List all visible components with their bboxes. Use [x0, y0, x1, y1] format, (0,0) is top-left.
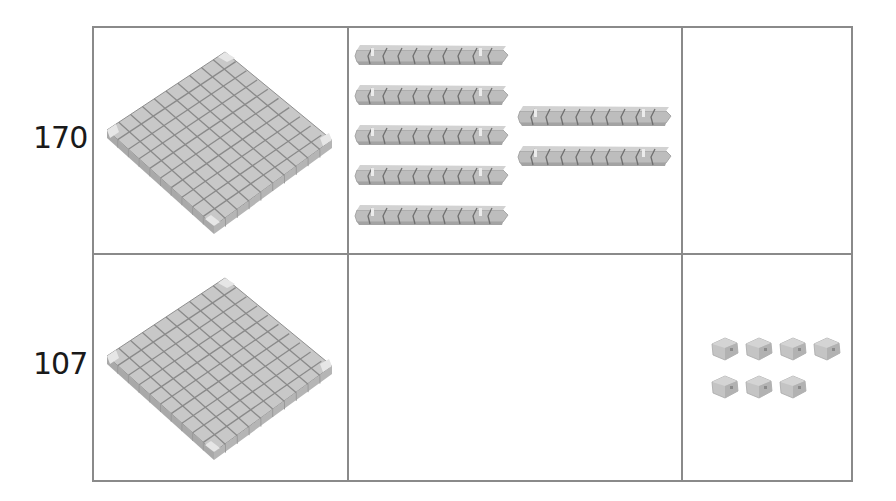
base-ten-blocks	[0, 0, 896, 501]
hundreds-flat-row-1	[107, 52, 332, 234]
hundreds-flat-row-2	[107, 278, 332, 460]
ones-cubes-row-2	[712, 338, 840, 398]
tens-rods-row-1	[355, 45, 671, 225]
